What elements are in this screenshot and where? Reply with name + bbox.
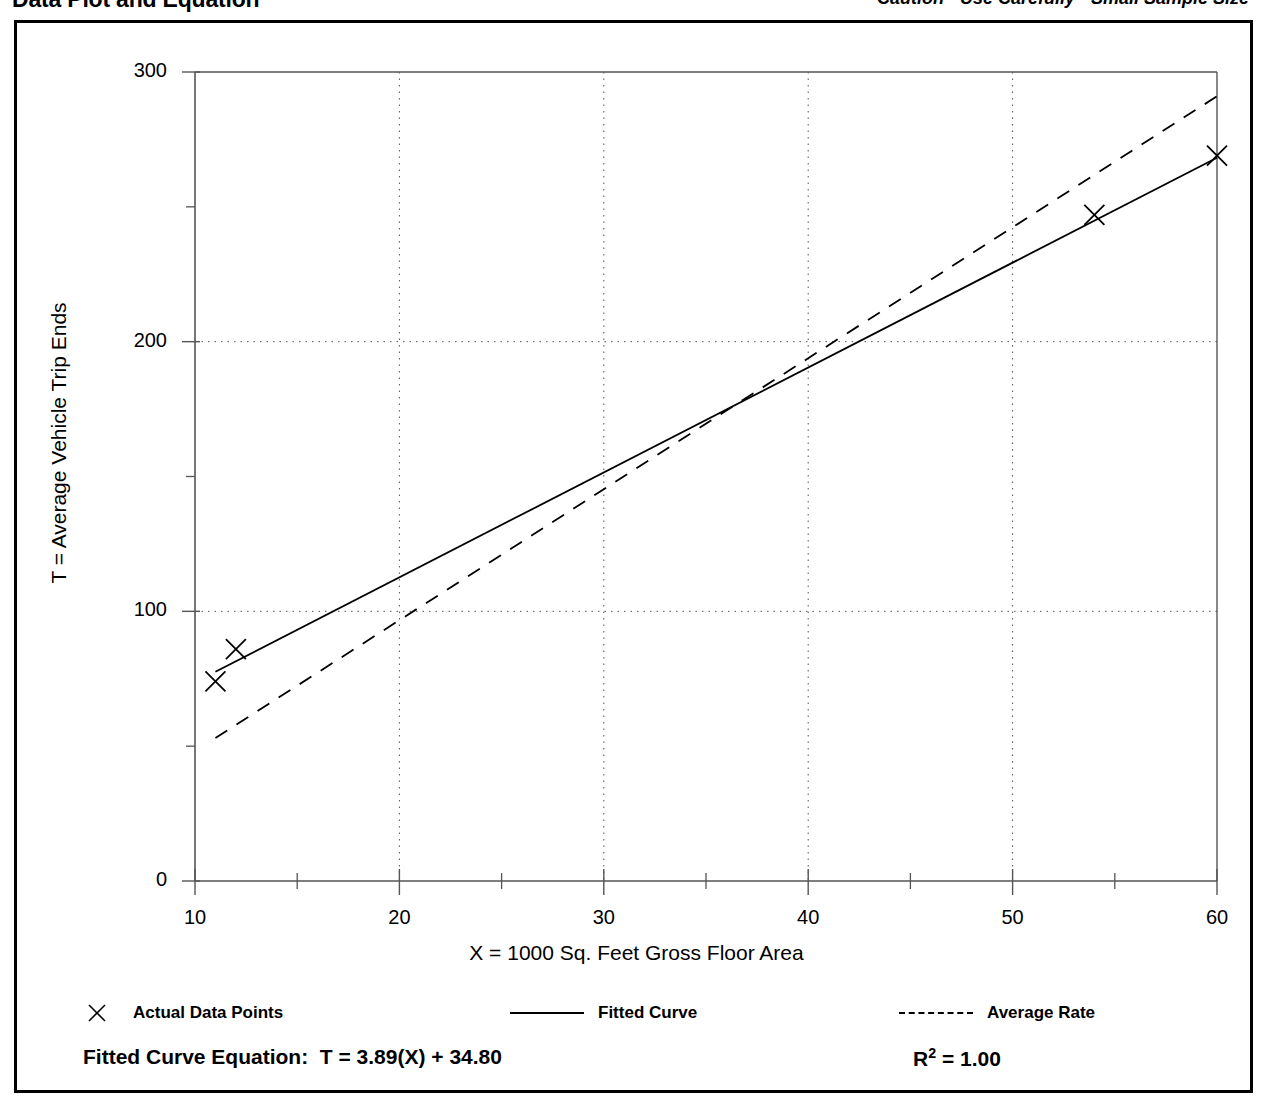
legend-item-average-rate: Average Rate	[899, 998, 1095, 1028]
x-axis-title: X = 1000 Sq. Feet Gross Floor Area	[17, 941, 1256, 965]
y-tick-label: 300	[57, 59, 167, 82]
chart-frame: T = Average Vehicle Trip Ends X = 1000 S…	[14, 20, 1253, 1093]
x-tick-label: 40	[763, 906, 853, 929]
x-tick-label: 50	[968, 906, 1058, 929]
equation-label: Fitted Curve Equation:	[83, 1045, 308, 1068]
chart-legend: Actual Data Points Fitted Curve Average …	[17, 998, 1256, 1038]
legend-item-actual-data-points: Actual Data Points	[83, 998, 283, 1028]
legend-label-actual-data-points: Actual Data Points	[133, 1003, 283, 1023]
chart-page: Data Plot and Equation Caution - Use Car…	[0, 0, 1269, 1105]
y-tick-label: 0	[57, 868, 167, 891]
legend-label-average-rate: Average Rate	[987, 1003, 1095, 1023]
equation-value: T = 3.89(X) + 34.80	[320, 1045, 502, 1068]
x-marker-icon	[83, 1003, 117, 1023]
plot-area: T = Average Vehicle Trip Ends X = 1000 S…	[17, 23, 1256, 1096]
dashed-line-icon	[899, 1003, 973, 1023]
r-squared-value: = 1.00	[942, 1047, 1001, 1070]
fitted-curve-equation: Fitted Curve Equation: T = 3.89(X) + 34.…	[83, 1045, 502, 1069]
x-tick-label: 10	[150, 906, 240, 929]
average-rate-line	[215, 96, 1217, 738]
data-point-marker	[226, 639, 246, 659]
y-axis-title: T = Average Vehicle Trip Ends	[47, 253, 71, 633]
caution-note: Caution - Use Carefully - Small Sample S…	[877, 0, 1249, 9]
page-title: Data Plot and Equation	[12, 0, 259, 13]
r-squared-exponent: 2	[928, 1045, 936, 1061]
x-tick-label: 60	[1172, 906, 1262, 929]
legend-item-fitted-curve: Fitted Curve	[510, 998, 697, 1028]
data-point-marker	[1084, 205, 1104, 225]
x-tick-label: 20	[354, 906, 444, 929]
chart-canvas	[17, 23, 1256, 1096]
solid-line-icon	[510, 1003, 584, 1023]
page-header: Data Plot and Equation Caution - Use Car…	[0, 0, 1269, 16]
y-tick-label: 100	[57, 598, 167, 621]
legend-label-fitted-curve: Fitted Curve	[598, 1003, 697, 1023]
equation-row: Fitted Curve Equation: T = 3.89(X) + 34.…	[17, 1045, 1256, 1085]
fitted-curve-line	[215, 158, 1217, 672]
r-squared-label: R	[913, 1047, 928, 1070]
y-tick-label: 200	[57, 329, 167, 352]
data-point-marker	[205, 671, 225, 691]
r-squared: R2 = 1.00	[913, 1045, 1001, 1071]
x-tick-label: 30	[559, 906, 649, 929]
